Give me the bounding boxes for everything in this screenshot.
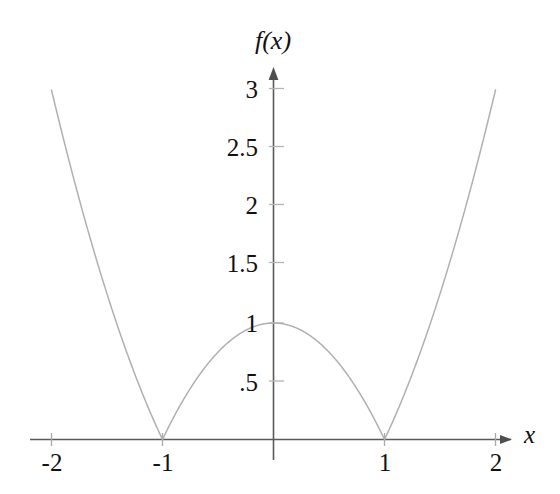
x-axis-arrow-icon <box>500 435 512 444</box>
x-tick-label-minus-2: -2 <box>42 450 63 475</box>
y-tick-label-2-5: 2.5 <box>227 135 258 160</box>
plot-canvas <box>0 0 560 494</box>
y-tick-label-1: 1 <box>246 311 259 336</box>
function-plot-figure: f(x) x 3 2.5 2 1.5 1 .5 -2 -1 1 2 <box>0 0 560 494</box>
y-tick-label-2: 2 <box>246 193 259 218</box>
x-axis-label: x <box>524 422 535 447</box>
x-tick-label-2: 2 <box>490 450 503 475</box>
x-tick-label-1: 1 <box>379 450 392 475</box>
y-axis-label: f(x) <box>255 28 291 54</box>
y-tick-marks <box>269 89 284 382</box>
y-tick-label-3: 3 <box>246 77 259 102</box>
y-axis-arrow-icon <box>269 67 279 80</box>
y-tick-label-0-5: .5 <box>239 370 258 395</box>
y-tick-label-1-5: 1.5 <box>227 251 258 276</box>
x-tick-label-minus-1: -1 <box>153 450 174 475</box>
